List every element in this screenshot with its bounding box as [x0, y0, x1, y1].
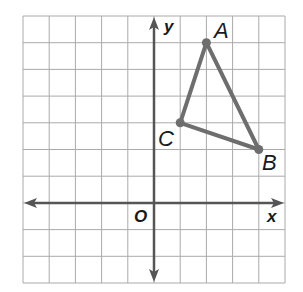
y-axis-label: y [163, 17, 175, 36]
vertex-point-c [176, 118, 185, 127]
vertex-point-a [202, 38, 211, 47]
vertex-label-c: C [158, 126, 174, 151]
vertex-label-a: A [212, 18, 229, 43]
x-axis-label: x [266, 207, 278, 226]
origin-label: O [134, 207, 147, 226]
vertex-label-b: B [262, 150, 277, 175]
coordinate-plane: y x O A B C [0, 0, 303, 292]
